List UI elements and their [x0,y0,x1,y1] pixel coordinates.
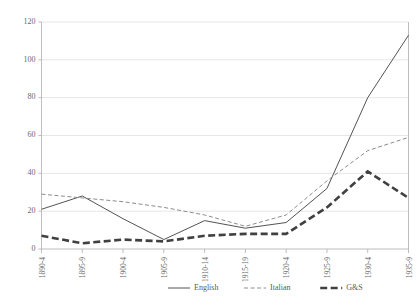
x-tick-label: 1915-19 [241,257,250,282]
y-tick-label: 0 [32,244,36,253]
x-tick-label: 1910-14 [201,257,210,282]
legend-label-g-s: G&S [346,283,362,292]
y-tick-label: 40 [28,168,36,177]
y-tick-label: 80 [28,92,36,101]
x-tick-label: 1935-9 [405,257,414,278]
line-chart: 020406080100120 1890-41895-91900-41905-9… [0,0,419,299]
x-tick-label: 1905-9 [160,257,169,278]
x-tick-label: 1925-9 [323,257,332,278]
chart-background [0,0,419,299]
y-tick-label: 20 [28,206,36,215]
y-tick-label: 120 [24,17,36,26]
chart-canvas: 020406080100120 1890-41895-91900-41905-9… [0,0,419,299]
x-tick-label: 1930-4 [364,257,373,278]
x-tick-label: 1920-4 [282,257,291,278]
legend-label-english: English [194,283,218,292]
y-tick-label: 100 [24,55,36,64]
x-tick-label: 1900-4 [119,257,128,278]
x-tick-label: 1890-4 [38,257,47,278]
legend-label-italian: Italian [270,283,290,292]
y-tick-label: 60 [28,130,36,139]
x-tick-label: 1895-9 [78,257,87,278]
